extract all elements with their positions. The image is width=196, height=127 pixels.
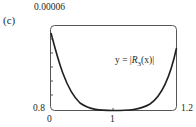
curve-label: y = |R3(x)| — [115, 55, 154, 68]
curve-label-prefix: y = | — [115, 55, 132, 65]
plot-area — [0, 0, 196, 127]
curve-abs-r3 — [51, 33, 177, 111]
curve-label-arg: (x)| — [141, 55, 154, 65]
